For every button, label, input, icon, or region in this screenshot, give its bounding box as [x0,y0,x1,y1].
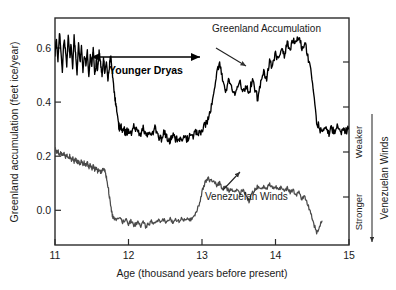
greenland-accumulation-label-line1: Greenland Accumulation [212,23,321,34]
y-axis-title: Greenland accumulation (feet ice/year) [8,42,20,223]
weaker-label: Weaker [353,126,364,159]
y-tick-label: 0.4 [36,96,51,108]
y-tick-label: 0.0 [36,204,51,216]
y-tick-label: 0.2 [36,150,51,162]
chart-canvas: 11 12 13 14 15 0.0 0.2 0.4 0.6 [0,0,396,290]
y-tick-labels: 0.0 0.2 0.4 0.6 [36,42,51,216]
x-tick-label: 11 [50,249,61,261]
x-tick-label: 15 [343,249,355,261]
x-tick-label: 14 [270,249,282,261]
x-tick-label: 13 [196,249,208,261]
y-tick-label: 0.6 [36,42,51,54]
stronger-label: Stronger [353,194,364,230]
x-tick-label: 12 [123,249,135,261]
greenland-venezuela-paleoclimate-chart: 11 12 13 14 15 0.0 0.2 0.4 0.6 [0,0,396,290]
younger-dryas-label: Younger Dryas [109,64,183,76]
x-axis-title: Age (thousand years before present) [116,267,287,279]
venezuelan-winds-label-line1: Venezuelan Winds [205,191,288,202]
x-tick-labels: 11 12 13 14 15 [50,249,355,261]
y2-axis-title: Venezuelan Winds [379,137,390,220]
